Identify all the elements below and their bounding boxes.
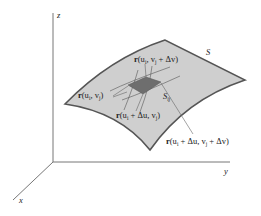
surface-label: S	[206, 47, 211, 57]
label-r-ui-vj: r(ui, vj)	[78, 90, 103, 101]
z-axis-label: z	[56, 10, 61, 20]
x-axis-label: x	[18, 195, 23, 205]
label-r-ui-vj-plus-dv: r(ui, vj + Δv)	[134, 54, 178, 65]
y-axis-label: y	[223, 166, 228, 176]
label-r-ui-plus-du-vj-plus-dv: r(ui + Δu, vj + Δv)	[166, 136, 229, 147]
label-r-ui-plus-du-vj: r(ui + Δu, vj)	[116, 110, 160, 121]
surface-patch-diagram: z y x S Sij r(ui, vj + Δv) r(ui, vj) r(u…	[0, 0, 261, 216]
